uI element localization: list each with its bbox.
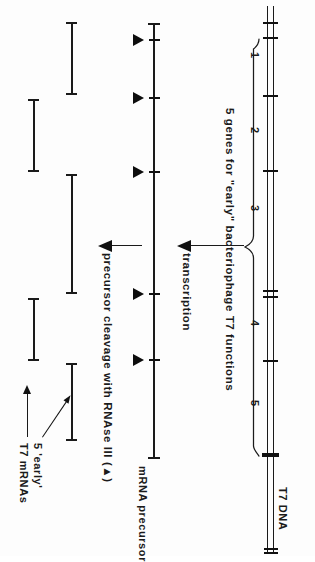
cleavage-tick-1 <box>149 39 160 41</box>
dna-strand-lower <box>273 6 274 554</box>
transcription-arrow-head <box>177 240 191 252</box>
cleavage-tick-2 <box>149 97 160 99</box>
gene-bracket-label: 5 genes for "early" bacteriophage T7 fun… <box>224 108 236 391</box>
mrna-precursor-line <box>153 23 154 458</box>
dna-gene-tick-0 <box>263 22 278 24</box>
dna-gene-tick-1 <box>263 37 278 39</box>
cleavage-tick-4 <box>149 293 160 295</box>
dna-terminus-tick-2 <box>264 552 278 554</box>
transcription-arrow-shaft <box>185 245 244 247</box>
t7-dna-label: T7 DNA <box>277 487 289 530</box>
cleavage-arrow-head <box>98 240 112 252</box>
mrna-precursor-cap-top <box>148 23 160 25</box>
mature-mrna-label-line2: T7 mRNAs <box>18 443 30 503</box>
dna-gene-tick-4 <box>263 290 278 292</box>
rnase-iii-arrowhead-2 <box>133 92 144 104</box>
dna-gene-tick-7 <box>262 453 279 457</box>
dna-gene-tick-3 <box>263 170 278 172</box>
gene-bracket <box>243 38 261 458</box>
cleavage-tick-5 <box>149 359 160 361</box>
rnase-iii-arrowhead-5 <box>133 354 144 366</box>
mrna-precursor-cap-bottom <box>148 457 160 459</box>
rnase-iii-arrowhead-4 <box>133 288 144 300</box>
dna-gene-tick-6 <box>263 360 278 362</box>
dna-strand-upper <box>267 6 268 554</box>
cleavage-tick-3 <box>149 171 160 173</box>
rnase-iii-arrowhead-1 <box>133 34 144 46</box>
rnase-iii-arrowhead-3 <box>133 166 144 178</box>
transcription-label: transcription <box>181 253 193 331</box>
dna-gene-tick-2 <box>263 95 278 97</box>
mature-mrna-label-line1: 5 'early' <box>32 443 44 489</box>
mrna-precursor-label: mRNA precursor <box>137 466 149 562</box>
cleavage-label: precursor cleavage with RNAse III (▲) <box>102 253 114 483</box>
dna-terminus-tick-1 <box>264 548 278 550</box>
dna-gene-tick-5 <box>263 296 278 298</box>
